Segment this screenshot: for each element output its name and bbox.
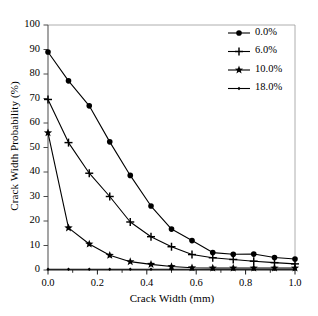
x-tick-label: 0.8 xyxy=(226,277,266,288)
y-tick-label: 20 xyxy=(10,214,40,225)
data-point-plus xyxy=(235,48,243,56)
x-tick-label: 0.4 xyxy=(127,277,167,288)
data-point-star xyxy=(147,260,155,268)
star-marker xyxy=(85,240,93,248)
x-tick-label: 0.2 xyxy=(77,277,117,288)
data-point-circle xyxy=(169,226,175,232)
y-tick-label: 50 xyxy=(10,141,40,152)
data-point-plus xyxy=(209,254,217,262)
y-tick-label: 10 xyxy=(10,239,40,250)
star-marker xyxy=(106,251,114,259)
y-tick-label: 60 xyxy=(10,116,40,127)
x-tick-label: 0.0 xyxy=(28,277,68,288)
series-60 xyxy=(44,95,299,267)
data-point-circle xyxy=(66,78,72,84)
circle-marker xyxy=(236,30,242,36)
circle-marker xyxy=(189,238,195,244)
data-point-circle xyxy=(236,30,242,36)
data-point-star xyxy=(126,257,134,265)
y-tick-label: 90 xyxy=(10,43,40,54)
data-point-plus xyxy=(65,139,73,147)
series-line xyxy=(48,99,295,263)
legend-label-180: 18.0% xyxy=(255,81,282,92)
data-point-plus xyxy=(188,251,196,259)
legend-label-00: 0.0% xyxy=(255,26,277,37)
circle-marker xyxy=(127,173,133,179)
circle-marker xyxy=(107,139,113,145)
legend-label-60: 6.0% xyxy=(255,44,277,55)
data-point-plus xyxy=(44,95,52,103)
legend-label-100: 10.0% xyxy=(255,63,282,74)
x-tick-label: 0.6 xyxy=(176,277,216,288)
data-point-circle xyxy=(86,103,92,109)
star-marker xyxy=(147,260,155,268)
circle-marker xyxy=(66,78,72,84)
circle-marker xyxy=(148,203,154,209)
data-point-plus xyxy=(147,233,155,241)
x-axis-label: Crack Width (mm) xyxy=(48,292,296,304)
y-tick-label: 40 xyxy=(10,165,40,176)
diamond-marker xyxy=(237,87,240,91)
data-point-circle xyxy=(148,203,154,209)
y-tick-label: 70 xyxy=(10,92,40,103)
data-point-plus xyxy=(168,243,176,251)
circle-marker xyxy=(86,103,92,109)
circle-marker xyxy=(251,251,257,257)
star-marker xyxy=(235,66,243,74)
data-point-circle xyxy=(127,173,133,179)
data-point-star xyxy=(235,66,243,74)
circle-marker xyxy=(169,226,175,232)
y-tick-label: 100 xyxy=(10,18,40,29)
circle-marker xyxy=(45,49,51,55)
y-tick-label: 80 xyxy=(10,67,40,78)
data-point-circle xyxy=(45,49,51,55)
x-tick-label: 1.0 xyxy=(275,277,315,288)
data-point-star xyxy=(85,240,93,248)
data-point-circle xyxy=(251,251,257,257)
data-point-star xyxy=(106,251,114,259)
star-marker xyxy=(126,257,134,265)
data-point-circle xyxy=(189,238,195,244)
data-point-circle xyxy=(107,139,113,145)
y-tick-label: 30 xyxy=(10,190,40,201)
data-point-plus xyxy=(229,255,237,263)
chart-figure: Crack Width Probability (%) Crack Width … xyxy=(0,0,318,316)
y-tick-label: 0 xyxy=(10,263,40,274)
data-point-diamond xyxy=(237,87,240,91)
